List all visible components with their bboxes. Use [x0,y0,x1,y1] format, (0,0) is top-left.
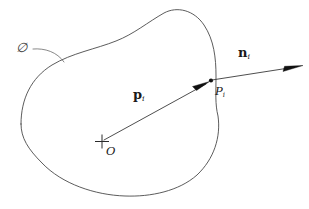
surface-label: ∅ [16,41,27,54]
position-vector-label: pi [133,88,145,103]
normal-vector-subscript: i [247,52,250,61]
surface-label-leader-line [33,49,64,62]
boundary-point-dot [209,78,213,82]
position-vector-subscript: i [142,94,145,103]
object-boundary-curve [21,10,219,196]
boundary-point-symbol: P [215,84,223,98]
position-vector-symbol: p [133,87,142,102]
boundary-point-label: Pi [215,86,225,98]
normal-vector-arrow [212,66,303,81]
normal-vector-label: ni [238,46,250,61]
figure-canvas: ∅ pi Pi ni O [0,0,309,209]
origin-label: O [106,146,115,158]
position-vector-arrow [104,82,210,141]
boundary-point-subscript: i [223,90,225,99]
geometry-diagram-svg [0,0,309,209]
